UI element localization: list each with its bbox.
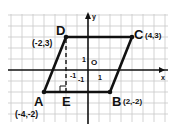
y-axis-arrow-icon: [85, 12, 91, 19]
label-a: A: [34, 94, 44, 109]
label-b: B: [112, 94, 121, 109]
tick-y-neg1: -1: [78, 76, 84, 83]
tick-x-neg1: -1: [70, 72, 76, 79]
label-c: C: [134, 27, 144, 42]
origin-label: O: [91, 58, 97, 67]
coord-a: (-4,-2): [15, 109, 38, 119]
label-e: E: [62, 94, 71, 109]
x-axis-label: x: [161, 74, 165, 81]
coordinate-diagram: D (-2,3) C (4,3) A (-4,-2) B (2,-2) E y …: [0, 0, 178, 134]
coord-b: (2,-2): [123, 97, 142, 106]
coord-c: (4,3): [145, 31, 162, 40]
y-axis-label: y: [92, 13, 96, 21]
axes: [8, 16, 168, 124]
tick-x-1: 1: [98, 74, 102, 81]
label-d: D: [56, 23, 65, 38]
x-axis-arrow-icon: [159, 67, 165, 73]
tick-y-1: 1: [82, 56, 86, 63]
coord-d: (-2,3): [32, 38, 52, 48]
